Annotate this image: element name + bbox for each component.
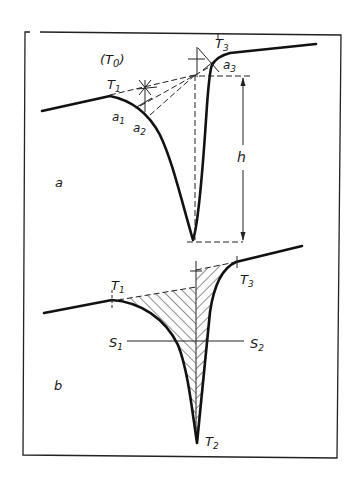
label-a3: a3 — [223, 58, 236, 74]
label-t3-b: T3 — [240, 272, 254, 289]
label-t2: T2 — [205, 434, 219, 451]
label-t1-a: T1 — [107, 77, 121, 94]
label-s1: S1 — [109, 335, 123, 352]
panel-label-a: a — [55, 175, 63, 190]
tangent-line-t1 — [110, 75, 195, 95]
panel-b: T1 T3 T2 S1 S2 b — [44, 246, 302, 451]
label-t0: (T0) — [100, 52, 124, 69]
label-s2: S2 — [250, 336, 264, 353]
thermal-curve-figure: (T0) T1 a1 a2 T3 a3 h a T1 T3 T2 S1 S2 b — [0, 0, 361, 477]
panel-a: (T0) T1 a1 a2 T3 a3 h a — [42, 33, 316, 242]
label-a2: a2 — [133, 121, 146, 137]
panel-a-curve — [42, 44, 316, 240]
tangent-line-a2 — [150, 75, 195, 115]
label-t1-b: T1 — [111, 278, 125, 295]
figure-frame — [23, 32, 341, 458]
label-t3-a: T3 — [215, 36, 229, 53]
label-a1: a1 — [112, 110, 125, 126]
panel-label-b: b — [54, 378, 62, 393]
tangent-line-a1 — [140, 65, 213, 106]
label-h: h — [237, 149, 246, 165]
